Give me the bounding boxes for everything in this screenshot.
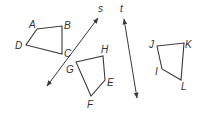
vertex-label-l: L xyxy=(181,81,187,92)
vertex-label-g: G xyxy=(66,64,74,75)
vertex-label-b: B xyxy=(64,20,71,31)
vertex-label-a: A xyxy=(28,19,36,30)
vertex-label-k: K xyxy=(185,39,193,50)
vertex-label-c: C xyxy=(64,48,72,59)
vertex-label-f: F xyxy=(87,99,94,110)
quadrilaterals xyxy=(26,26,184,96)
vertex-label-j: J xyxy=(148,39,155,50)
line-label-s: s xyxy=(98,3,103,14)
quadrilateral-ghef xyxy=(76,56,105,96)
vertex-label-d: D xyxy=(15,40,22,51)
labels: stABCDGHEFJKLI xyxy=(15,3,193,110)
vertex-label-i: I xyxy=(155,66,158,77)
vertex-label-e: E xyxy=(107,77,114,88)
vertex-label-h: H xyxy=(101,44,109,55)
quadrilateral-jkli xyxy=(157,43,184,80)
line-label-t: t xyxy=(120,3,124,14)
line-t xyxy=(124,19,137,98)
quadrilateral-abcd xyxy=(26,26,62,54)
geometry-diagram: stABCDGHEFJKLI xyxy=(0,0,200,115)
